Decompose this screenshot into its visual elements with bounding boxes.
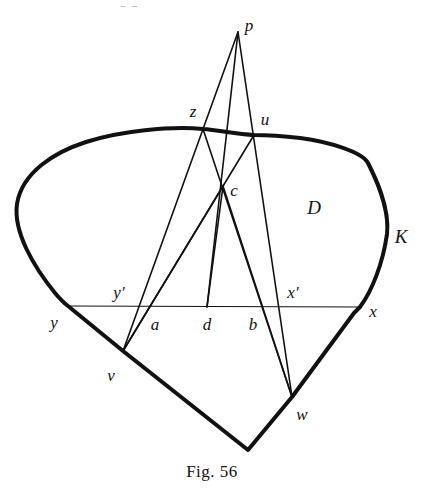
point-label-p: p [245, 17, 254, 34]
convex-curve-K [17, 128, 388, 450]
segment-p-to-w [238, 32, 292, 397]
point-label-x: x [369, 303, 377, 320]
point-label-K: K [395, 227, 408, 246]
figure-drawing-canvas [0, 0, 425, 488]
point-label-D: D [307, 198, 321, 217]
segment-c-to-d [207, 186, 223, 307]
point-label-xp: x′ [287, 284, 298, 301]
point-label-u: u [261, 111, 270, 128]
point-label-v: v [107, 367, 115, 384]
point-label-b: b [249, 316, 258, 333]
figure-caption: Fig. 56 [186, 462, 238, 482]
figure-56: p p pzucDKy′x′yadbxvw Fig. 56 [0, 0, 425, 488]
point-label-a: a [151, 316, 160, 333]
point-label-w: w [296, 406, 307, 423]
point-label-z: z [190, 103, 197, 120]
curve-K-outline [17, 128, 388, 450]
point-label-d: d [203, 316, 212, 333]
point-label-y: y [50, 314, 58, 331]
segment-c-to-w [223, 186, 292, 397]
point-label-yp: y′ [113, 284, 124, 301]
point-label-c: c [230, 182, 238, 199]
segment-chord-y-to-x [68, 306, 360, 307]
